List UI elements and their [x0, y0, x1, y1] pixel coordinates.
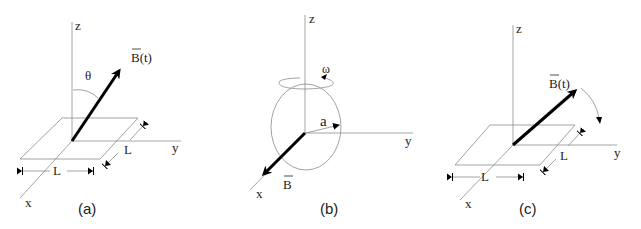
panel-b: z y x ω a B (b) — [250, 11, 413, 217]
y-axis-label: y — [405, 133, 412, 148]
z-axis-label: z — [516, 21, 522, 36]
side-length-label-right: L — [560, 148, 568, 163]
y-axis-label: y — [614, 145, 621, 160]
x-axis — [20, 141, 72, 198]
omega-label: ω — [322, 62, 330, 76]
z-axis-label: z — [309, 11, 315, 26]
theta-arc — [73, 90, 98, 98]
square-loop — [20, 118, 138, 159]
theta-label: θ — [85, 68, 91, 83]
z-axis-label: z — [75, 18, 81, 33]
dimension-line — [105, 153, 118, 166]
rotation-arrowhead-icon — [596, 117, 602, 124]
side-length-label-right: L — [124, 142, 132, 157]
y-axis-label: y — [172, 140, 179, 155]
x-axis-label: x — [25, 195, 32, 210]
dimension-line — [543, 159, 556, 172]
diagram-canvas: z y x θ B(t) L L (a) z y x ω a B (b) — [0, 0, 641, 229]
panel-a: z y x θ B(t) L L (a) — [20, 18, 181, 217]
radius-label: a — [320, 113, 327, 129]
b-field-vector — [264, 133, 305, 174]
b-field-vector — [72, 71, 119, 141]
dimension-line — [568, 133, 580, 146]
panel-b-caption: (b) — [320, 200, 338, 217]
x-axis-label: x — [256, 186, 263, 201]
panel-c: z y x B(t) L L (c) — [452, 21, 621, 217]
x-axis-label: x — [465, 196, 472, 211]
side-length-label-front: L — [53, 163, 61, 178]
panel-c-caption: (c) — [519, 200, 537, 217]
dimension-line — [130, 126, 143, 140]
b-vector-label: B — [283, 177, 292, 192]
side-length-label-front: L — [481, 169, 489, 184]
panel-a-caption: (a) — [78, 200, 96, 217]
b-field-vector — [513, 91, 575, 145]
b-vector-label: B(t) — [549, 76, 570, 91]
b-vector-label: B(t) — [131, 50, 152, 65]
rotation-arc — [581, 88, 599, 118]
